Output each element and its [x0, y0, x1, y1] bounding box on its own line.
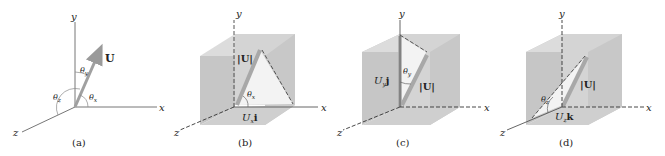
caption-c: (c): [396, 137, 410, 148]
magnitude-label: |U|: [580, 79, 596, 91]
magnitude-label: |U|: [419, 81, 435, 93]
theta-z-label: θz: [53, 93, 62, 103]
z-axis-label: z: [12, 127, 19, 138]
z-axis-label: z: [336, 127, 343, 138]
x-axis-label: x: [321, 102, 327, 113]
x-axis-label: x: [159, 102, 165, 113]
z-axis-label: z: [499, 127, 506, 138]
y-axis-label: y: [70, 11, 77, 22]
y-axis-label: y: [558, 8, 565, 19]
panel-b: y x z |U| θx Uxi (b): [173, 8, 327, 148]
panel-d: y x z |U| θz Uzk (d): [499, 8, 652, 148]
caption-d: (d): [559, 137, 573, 148]
x-axis-label: x: [484, 102, 490, 113]
y-axis-label: y: [398, 8, 405, 19]
caption-b: (b): [238, 137, 252, 148]
panel-c: y x z |U| θy Uyj (c): [336, 8, 490, 148]
y-axis-label: y: [235, 8, 242, 19]
theta-x-arc: [80, 95, 88, 107]
direction-cosines-figure: y x z U θy θx θz (a) y x z |U| θx Uxi (b…: [0, 0, 665, 156]
component-label: Uxi: [242, 112, 258, 124]
theta-y-label: θy: [80, 66, 89, 77]
vector-u-label: U: [105, 52, 115, 65]
magnitude-label: |U|: [237, 53, 253, 65]
x-axis-label: x: [646, 102, 652, 113]
z-axis-label: z: [173, 127, 180, 138]
z-axis: [22, 107, 75, 132]
caption-a: (a): [72, 137, 86, 148]
panel-a: y x z U θy θx θz (a): [12, 11, 165, 148]
theta-x-label: θx: [89, 93, 98, 103]
